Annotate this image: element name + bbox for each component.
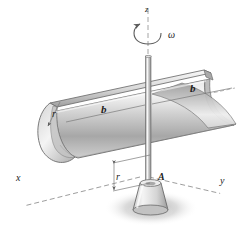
omega-arc [134, 24, 161, 44]
vertical-shaft [146, 55, 152, 183]
point-a-marker: A [157, 171, 165, 182]
rotation-arrow: ω [134, 24, 175, 44]
label-radius-tube: r [52, 108, 56, 119]
label-axis-z: z [144, 4, 149, 14]
label-axis-x: x [15, 172, 21, 183]
mechanics-diagram: r b b A [0, 0, 242, 234]
r-offset-extension-top [113, 155, 150, 163]
label-radius-offset: r [116, 171, 120, 182]
label-point-a: A [157, 171, 165, 182]
pedestal-base [133, 180, 168, 215]
label-axis-y: y [219, 175, 225, 186]
label-b-right: b [190, 82, 196, 94]
shaft-top-cap [146, 55, 152, 57]
label-b-left: b [101, 103, 107, 115]
shaft-body [146, 56, 152, 183]
label-omega: ω [168, 29, 175, 40]
figure-canvas: r b b A [0, 0, 242, 234]
cylindrical-tube [38, 70, 236, 162]
